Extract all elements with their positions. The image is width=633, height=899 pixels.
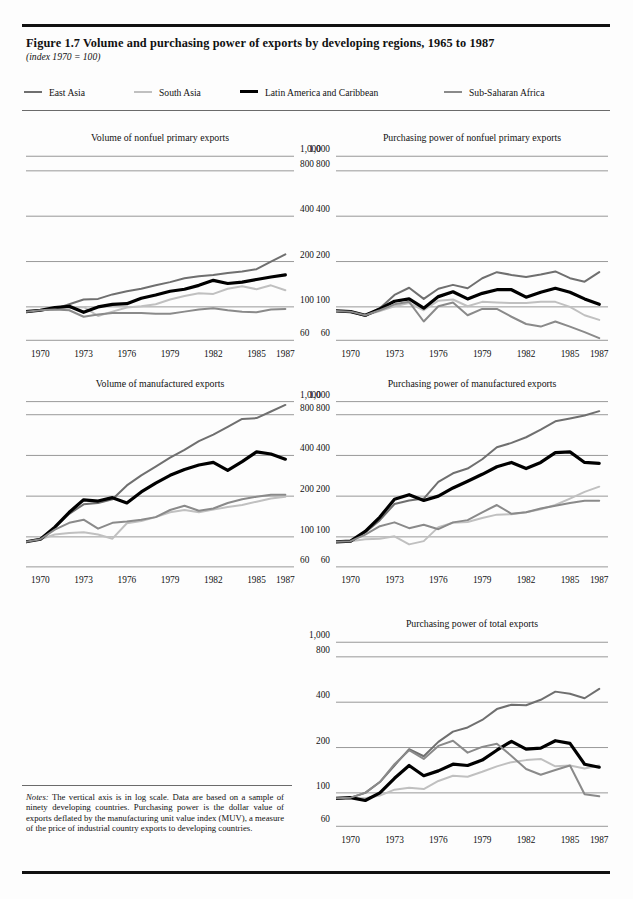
x-axis-tick-label: 1973 — [385, 573, 404, 587]
y-axis-tick-label: 1,000 — [292, 631, 330, 640]
plot-area — [26, 396, 294, 572]
y-axis-tick-label: 800 — [292, 404, 330, 413]
x-axis: 1970197319761979198219851987 — [26, 347, 294, 361]
legend-item: East Asia — [24, 84, 85, 100]
notes-label: Notes: — [26, 792, 49, 802]
x-axis-tick-label: 1982 — [204, 347, 223, 361]
y-axis-tick-label: 60 — [292, 329, 330, 338]
x-axis: 1970197319761979198219851987 — [26, 573, 294, 587]
legend-line-icon — [444, 91, 462, 93]
x-axis-tick-label: 1979 — [161, 573, 180, 587]
series-line — [336, 487, 599, 545]
series-line — [26, 308, 285, 317]
y-axis-tick-label: 1,000 — [292, 145, 330, 154]
figure-title: Figure 1.7 Volume and purchasing power o… — [26, 36, 606, 50]
figure-page: Figure 1.7 Volume and purchasing power o… — [0, 0, 633, 899]
x-axis-tick-label: 1987 — [590, 833, 609, 847]
x-axis-tick-label: 1970 — [341, 573, 360, 587]
legend-label: Sub-Saharan Africa — [469, 85, 544, 101]
x-axis: 1970197319761979198219851987 — [336, 833, 608, 847]
figure-notes: Notes: The vertical axis is in log scale… — [26, 792, 284, 834]
figure-subtitle: (index 1970 = 100) — [26, 51, 100, 63]
legend-label: Latin America and Caribbean — [265, 85, 378, 101]
y-axis-tick-label: 400 — [292, 205, 330, 214]
series-line — [336, 741, 599, 801]
legend-label: South Asia — [159, 85, 201, 101]
chart-title: Purchasing power of manufactured exports — [336, 378, 608, 390]
series-line — [336, 741, 599, 799]
plot-area — [336, 150, 608, 346]
series-line — [26, 405, 285, 542]
legend-line-icon — [134, 91, 152, 93]
x-axis-tick-label: 1973 — [385, 347, 404, 361]
chart-title: Purchasing power of nonfuel primary expo… — [336, 132, 608, 144]
x-axis-tick-label: 1979 — [473, 347, 492, 361]
legend-rule — [22, 110, 610, 111]
x-axis-tick-label: 1987 — [276, 347, 295, 361]
y-axis-tick-label: 200 — [292, 737, 330, 746]
y-axis-tick-label: 60 — [292, 556, 330, 565]
x-axis-tick-label: 1987 — [590, 347, 609, 361]
x-axis-tick-label: 1987 — [590, 573, 609, 587]
x-axis-tick-label: 1985 — [561, 347, 580, 361]
series-line — [26, 254, 285, 311]
plot-area — [336, 636, 608, 832]
bottom-rule — [22, 871, 610, 874]
x-axis-tick-label: 1982 — [204, 573, 223, 587]
plot-area — [336, 396, 608, 572]
y-axis-tick-label: 100 — [292, 782, 330, 791]
legend-item: South Asia — [134, 84, 201, 100]
legend-line-icon — [24, 91, 42, 93]
y-axis-tick-label: 800 — [292, 646, 330, 655]
y-axis-tick-label: 800 — [292, 160, 330, 169]
x-axis-tick-label: 1985 — [247, 347, 266, 361]
x-axis-tick-label: 1973 — [74, 573, 93, 587]
x-axis-tick-label: 1982 — [517, 347, 536, 361]
notes-text: The vertical axis is in log scale. Data … — [26, 792, 284, 833]
y-axis-tick-label: 200 — [292, 251, 330, 260]
x-axis-tick-label: 1982 — [517, 573, 536, 587]
x-axis-tick-label: 1973 — [74, 347, 93, 361]
y-axis-tick-label: 60 — [292, 815, 330, 824]
legend-label: East Asia — [49, 85, 85, 101]
legend-item: Sub-Saharan Africa — [444, 84, 544, 100]
x-axis: 1970197319761979198219851987 — [336, 573, 608, 587]
x-axis-tick-label: 1976 — [118, 347, 137, 361]
x-axis-tick-label: 1985 — [561, 573, 580, 587]
x-axis-tick-label: 1970 — [341, 347, 360, 361]
y-axis-tick-label: 400 — [292, 691, 330, 700]
x-axis-tick-label: 1976 — [429, 833, 448, 847]
series-line — [336, 689, 599, 798]
notes-rule — [22, 785, 292, 786]
x-axis-tick-label: 1973 — [385, 833, 404, 847]
y-axis-tick-label: 100 — [292, 526, 330, 535]
y-axis-tick-label: 1,000 — [292, 391, 330, 400]
x-axis-tick-label: 1987 — [276, 573, 295, 587]
x-axis-tick-label: 1976 — [429, 573, 448, 587]
x-axis-tick-label: 1979 — [473, 833, 492, 847]
legend-item: Latin America and Caribbean — [240, 84, 378, 100]
x-axis-tick-label: 1970 — [341, 833, 360, 847]
x-axis-tick-label: 1982 — [517, 833, 536, 847]
plot-area — [26, 150, 294, 346]
y-axis-tick-label: 400 — [292, 444, 330, 453]
chart-title: Purchasing power of total exports — [336, 618, 608, 630]
y-axis-tick-label: 100 — [292, 296, 330, 305]
x-axis-tick-label: 1985 — [561, 833, 580, 847]
x-axis-tick-label: 1970 — [31, 573, 50, 587]
y-axis-tick-label: 200 — [292, 485, 330, 494]
chart-title: Volume of manufactured exports — [26, 378, 294, 390]
x-axis-tick-label: 1979 — [161, 347, 180, 361]
chart-title: Volume of nonfuel primary exports — [26, 132, 294, 144]
x-axis-tick-label: 1985 — [247, 573, 266, 587]
x-axis-tick-label: 1976 — [118, 573, 137, 587]
x-axis-tick-label: 1970 — [31, 347, 50, 361]
x-axis-tick-label: 1976 — [429, 347, 448, 361]
series-line — [26, 452, 285, 542]
top-rule — [22, 24, 610, 27]
x-axis-tick-label: 1979 — [473, 573, 492, 587]
legend-line-icon — [240, 90, 258, 93]
legend: East AsiaSouth AsiaLatin America and Car… — [24, 84, 610, 100]
x-axis: 1970197319761979198219851987 — [336, 347, 608, 361]
